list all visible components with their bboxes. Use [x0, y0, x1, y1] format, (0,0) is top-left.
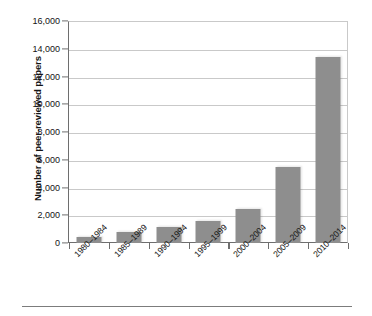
y-tick-mark — [62, 48, 68, 49]
y-tick-label: 12,000 — [4, 72, 60, 82]
y-tick-mark — [62, 215, 68, 216]
x-tick-mark — [348, 243, 349, 249]
bar-chart-figure: Number of peer-reviewed papers 02,0004,0… — [0, 0, 372, 316]
x-tick-mark — [308, 243, 309, 249]
bar-slot — [69, 21, 109, 243]
y-tick-mark — [62, 159, 68, 160]
x-tick-mark — [268, 243, 269, 249]
y-tick-label: 0 — [4, 238, 60, 248]
bottom-divider — [22, 306, 352, 307]
y-tick-label: 4,000 — [4, 183, 60, 193]
bars-layer — [69, 21, 348, 243]
bar[interactable] — [316, 57, 341, 243]
y-tick-label: 2,000 — [4, 210, 60, 220]
bar-slot — [268, 21, 308, 243]
y-tick-mark — [62, 20, 68, 21]
bar-slot — [228, 21, 268, 243]
y-tick-label: 6,000 — [4, 155, 60, 165]
bar-slot — [149, 21, 189, 243]
bar-slot — [109, 21, 149, 243]
x-tick-mark — [69, 243, 70, 249]
y-tick-label: 14,000 — [4, 44, 60, 54]
y-tick-label: 10,000 — [4, 99, 60, 109]
x-tick-mark — [109, 243, 110, 249]
y-tick-mark — [62, 242, 68, 243]
bar-slot — [308, 21, 348, 243]
y-tick-mark — [62, 131, 68, 132]
x-tick-mark — [149, 243, 150, 249]
y-tick-mark — [62, 104, 68, 105]
y-tick-mark — [62, 187, 68, 188]
x-tick-mark — [228, 243, 229, 249]
y-tick-mark — [62, 76, 68, 77]
y-tick-label: 8,000 — [4, 127, 60, 137]
bar-slot — [189, 21, 229, 243]
x-tick-mark — [189, 243, 190, 249]
y-tick-label: 16,000 — [4, 16, 60, 26]
